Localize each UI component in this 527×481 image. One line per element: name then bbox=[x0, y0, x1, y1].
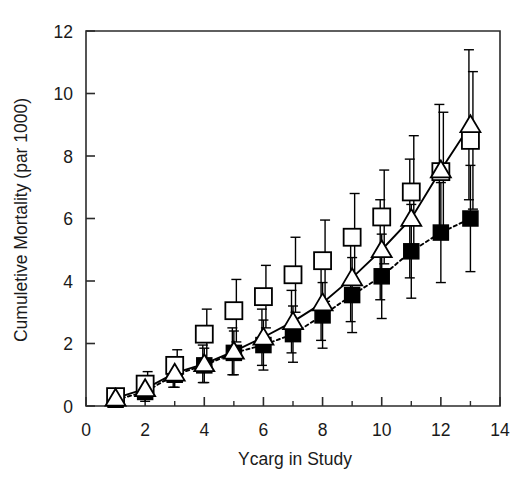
x-tick-label: 6 bbox=[259, 420, 269, 440]
marker-open-square bbox=[373, 208, 390, 225]
marker-open-square bbox=[285, 266, 302, 283]
x-tick-label: 10 bbox=[372, 420, 392, 440]
marker-filled-square bbox=[404, 244, 419, 259]
marker-open-square bbox=[255, 288, 272, 305]
y-tick-label: 0 bbox=[63, 397, 73, 417]
y-axis-title: Cumuletive Mortality (par 1000) bbox=[11, 98, 31, 342]
marker-open-square bbox=[403, 183, 420, 200]
marker-filled-square bbox=[374, 269, 389, 284]
marker-open-square bbox=[344, 229, 361, 246]
marker-open-triangle bbox=[283, 312, 303, 329]
y-tick-label: 8 bbox=[63, 147, 73, 167]
chart-figure: 02468101214024681012 Cumuletive Mortalit… bbox=[0, 0, 527, 481]
marker-open-triangle bbox=[460, 115, 480, 132]
data-series-layer bbox=[106, 50, 481, 408]
y-tick-label: 10 bbox=[54, 84, 74, 104]
marker-filled-square bbox=[463, 211, 478, 226]
x-tick-label: 0 bbox=[81, 420, 91, 440]
marker-open-triangle bbox=[253, 328, 273, 345]
y-tick-label: 6 bbox=[63, 209, 73, 229]
y-tick-label: 4 bbox=[63, 272, 73, 292]
marker-open-square bbox=[462, 132, 479, 149]
x-tick-label: 12 bbox=[431, 420, 450, 440]
x-tick-label: 8 bbox=[318, 420, 328, 440]
x-tick-label: 4 bbox=[199, 420, 209, 440]
x-tick-label: 14 bbox=[490, 420, 510, 440]
marker-open-square bbox=[196, 326, 213, 343]
marker-open-triangle bbox=[401, 209, 421, 226]
marker-open-square bbox=[225, 302, 242, 319]
marker-filled-square bbox=[345, 288, 360, 303]
x-tick-label: 2 bbox=[140, 420, 150, 440]
marker-filled-square bbox=[433, 225, 448, 240]
x-axis-title: Ycarg in Study bbox=[238, 449, 352, 469]
cumulative-mortality-chart: 02468101214024681012 Cumuletive Mortalit… bbox=[0, 0, 527, 481]
marker-open-square bbox=[314, 252, 331, 269]
y-tick-label: 12 bbox=[54, 22, 73, 42]
y-tick-label: 2 bbox=[63, 334, 73, 354]
